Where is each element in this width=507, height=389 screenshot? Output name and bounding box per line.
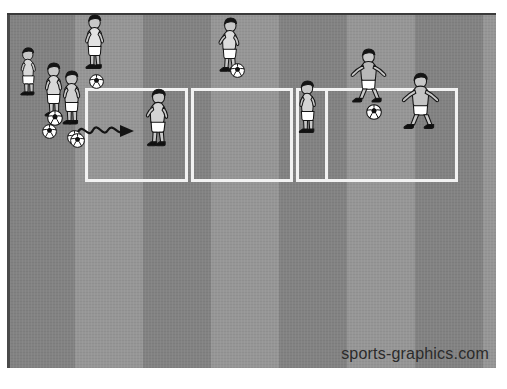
grass-stripe-3 [143,13,211,368]
player-top-right [345,48,392,106]
soccer-ball-dribble [70,133,85,152]
soccer-ball-top-center [230,63,245,82]
soccer-ball-top-right [366,104,382,124]
watermark-text: sports-graphics.com [341,345,489,363]
grass-stripe-8 [483,13,496,368]
diagram-canvas: sports-graphics.com [0,0,507,389]
grass-stripe-7 [415,13,483,368]
player-in-cell-4 [396,72,445,133]
soccer-ball-top-left [89,74,104,93]
grid-cell-2 [191,88,293,182]
pitch-left-shadow [7,13,10,368]
soccer-ball-queue-b [42,124,57,143]
player-in-cell-1 [138,88,177,153]
player-in-cell-2-right [292,80,324,138]
player-top-left [78,14,113,75]
grass-stripe-5 [279,13,347,368]
